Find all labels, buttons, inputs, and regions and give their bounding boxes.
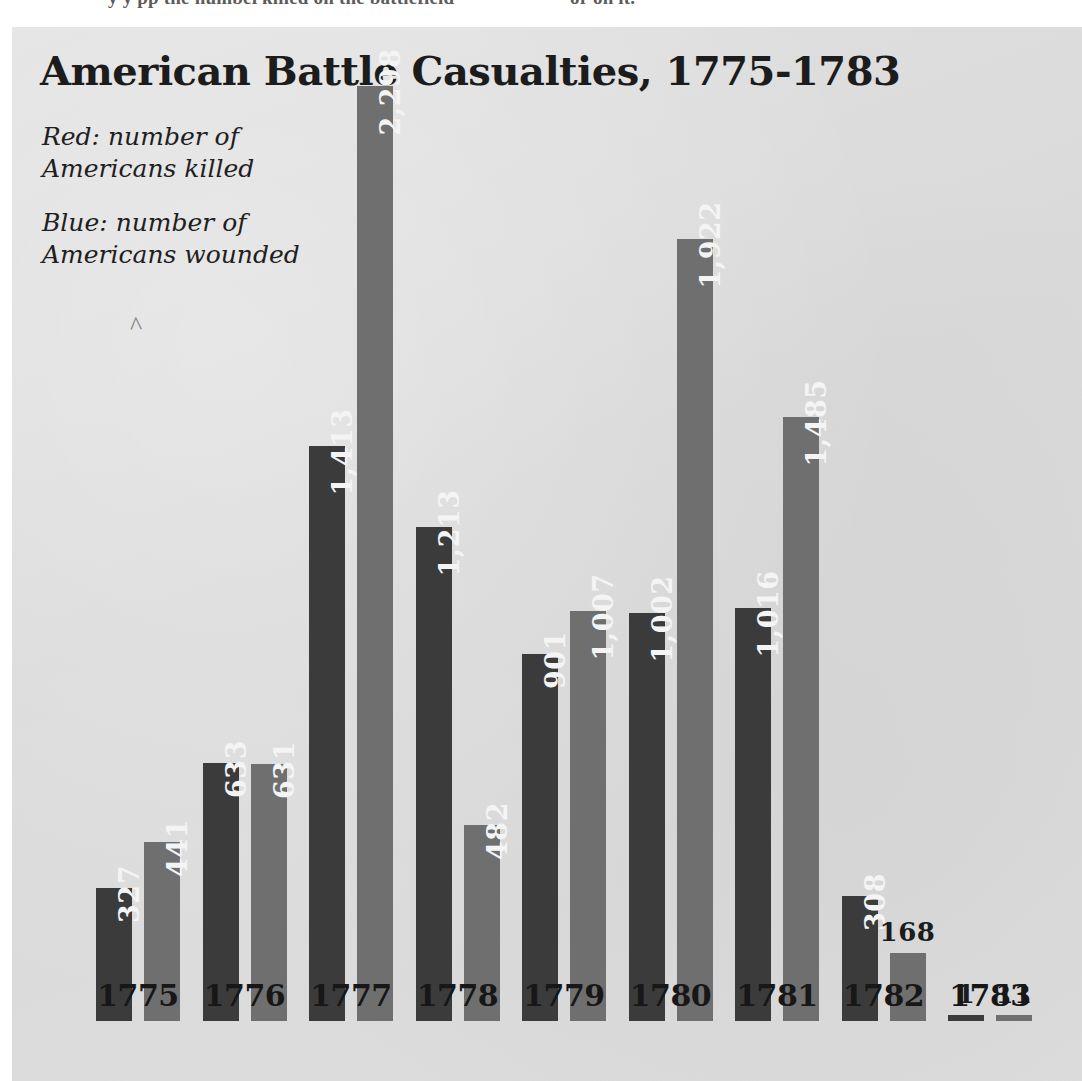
bar-value-label: 327: [114, 865, 145, 923]
x-axis-tick-1780: 1780: [629, 978, 713, 1013]
bar-killed-1780[interactable]: 1,002: [629, 613, 665, 1021]
bar-group-1782: 3081681782: [842, 86, 926, 1021]
x-axis-tick-1777: 1777: [309, 978, 393, 1013]
bar-group-1783: 1111783: [948, 86, 1032, 1021]
x-axis-tick-1775: 1775: [96, 978, 180, 1013]
bar-killed-1777[interactable]: 1,413: [309, 446, 345, 1021]
x-axis-tick-1779: 1779: [522, 978, 606, 1013]
x-axis-tick-1776: 1776: [203, 978, 287, 1013]
bar-group-1779: 9011,0071779: [522, 86, 606, 1021]
x-axis-tick-1782: 1782: [842, 978, 926, 1013]
bar-value-label: 1,213: [434, 489, 465, 576]
bar-value-label: 1,016: [753, 570, 784, 657]
x-axis-tick-1783: 1783: [948, 978, 1032, 1013]
bar-group-1776: 6336311776: [203, 86, 287, 1021]
bar-group-1777: 1,4132,2981777: [309, 86, 393, 1021]
bar-wounded-1779[interactable]: 1,007: [570, 611, 606, 1021]
bar-wounded-1781[interactable]: 1,485: [783, 417, 819, 1021]
bar-killed-1781[interactable]: 1,016: [735, 608, 771, 1021]
bar-killed-1778[interactable]: 1,213: [416, 527, 452, 1021]
bar-group-1775: 3274411775: [96, 86, 180, 1021]
x-axis-tick-1778: 1778: [416, 978, 500, 1013]
bar-value-label: 1,485: [801, 379, 832, 466]
bar-value-label: 901: [540, 631, 571, 689]
body-text-segment-1: y y pp the number: [108, 0, 260, 9]
bar-group-1780: 1,0021,9221780: [629, 86, 713, 1021]
bar-value-label: 1,413: [327, 408, 358, 495]
bar-value-label: 2,298: [375, 48, 406, 135]
bar-group-1778: 1,2134821778: [416, 86, 500, 1021]
chart-panel: American Battle Casualties, 1775-1783 Re…: [12, 27, 1082, 1081]
bar-group-1781: 1,0161,4851781: [735, 86, 819, 1021]
x-axis-tick-1781: 1781: [735, 978, 819, 1013]
bar-value-label: 441: [162, 819, 193, 877]
bar-value-label: 1,007: [588, 573, 619, 660]
bar-killed-1779[interactable]: 901: [522, 654, 558, 1021]
bar-value-label: 482: [482, 802, 513, 860]
bar-value-label: 633: [221, 740, 252, 798]
body-text-segment-2: killed on the battlefield: [262, 0, 454, 9]
bar-wounded-1783[interactable]: 11: [996, 1015, 1032, 1021]
bar-wounded-1777[interactable]: 2,298: [357, 86, 393, 1021]
bar-value-label: 1,922: [695, 201, 726, 288]
bar-value-label: 168: [880, 917, 936, 947]
body-text-segment-3: or on it.: [570, 0, 635, 9]
bar-value-label: 1,002: [647, 575, 678, 662]
bar-wounded-1780[interactable]: 1,922: [677, 239, 713, 1021]
plot-area: 327441177563363117761,4132,29817771,2134…: [12, 27, 1082, 1081]
bar-killed-1783[interactable]: 1: [948, 1015, 984, 1021]
bar-value-label: 631: [269, 741, 300, 799]
page-body-text-fragment: y y pp the number killed on the battlefi…: [0, 0, 1082, 18]
